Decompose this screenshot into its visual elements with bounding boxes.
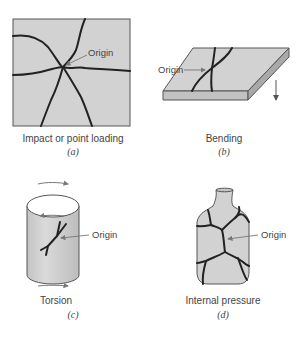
origin-label-d: Origin [261, 229, 286, 240]
panel-c-torsion: Origin Torsion (c) [27, 183, 117, 322]
torque-arrow-bottom-icon [38, 285, 68, 286]
plate-front-face [163, 91, 248, 100]
sublabel-c: (c) [67, 309, 79, 321]
origin-label-c: Origin [92, 229, 117, 240]
panel-b-bending: Origin Bending (b) [158, 48, 289, 158]
cylinder-top [27, 195, 79, 217]
sublabel-d: (d) [217, 309, 229, 321]
origin-label-b: Origin [158, 64, 183, 75]
caption-d: Internal pressure [185, 295, 260, 306]
torque-arrow-top-icon [38, 183, 68, 185]
cylinder-body [27, 206, 79, 284]
fracture-origins-diagram: Origin Impact or point loading (a) Origi… [0, 0, 300, 343]
panel-d-internal-pressure: Origin Internal pressure (d) [185, 188, 286, 321]
caption-c: Torsion [40, 295, 72, 306]
origin-label-a: Origin [88, 47, 113, 58]
caption-a: Impact or point loading [22, 133, 123, 144]
sublabel-a: (a) [67, 146, 79, 158]
plate-square [13, 19, 130, 126]
panel-a-impact: Origin Impact or point loading (a) [13, 19, 130, 158]
sublabel-b: (b) [218, 146, 230, 158]
caption-b: Bending [206, 133, 243, 144]
bottle-mouth [216, 188, 233, 192]
